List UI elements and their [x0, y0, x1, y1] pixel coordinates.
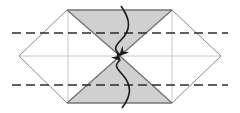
origami-diagram-canvas [0, 0, 240, 113]
fold-diagram-svg [0, 0, 240, 113]
